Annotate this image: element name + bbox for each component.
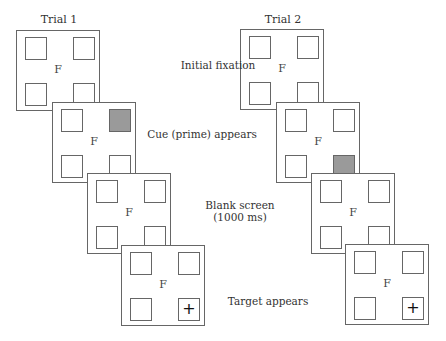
fixation-letter: F [17, 63, 99, 76]
placeholder-box [249, 82, 271, 105]
stage-label-cue: Cue (prime) appears [147, 128, 257, 140]
placeholder-box [368, 180, 390, 203]
placeholder-box [320, 226, 342, 249]
fixation-letter: F [88, 206, 170, 219]
fixation-letter: F [346, 277, 428, 290]
stage-label-initial-fixation: Initial fixation [181, 59, 256, 71]
trial-2-title: Trial 2 [265, 13, 302, 26]
trial-1-target-screen: F + [121, 245, 205, 326]
placeholder-box [320, 180, 342, 203]
trial-2-target-screen: F + [345, 244, 429, 325]
placeholder-box [354, 297, 376, 320]
trial-1-initial-fixation-screen: F [16, 30, 100, 111]
target-box: + [178, 298, 200, 321]
placeholder-box [25, 83, 47, 106]
placeholder-box [96, 180, 118, 203]
placeholder-box [61, 109, 83, 132]
placeholder-box [73, 37, 95, 60]
fixation-letter: F [277, 135, 359, 148]
plus-target-icon: + [179, 300, 199, 318]
placeholder-box [96, 226, 118, 249]
fixation-letter: F [122, 278, 204, 291]
cue-box [109, 109, 131, 132]
placeholder-box [285, 109, 307, 132]
placeholder-box [25, 37, 47, 60]
placeholder-box [354, 251, 376, 274]
fixation-letter: F [53, 135, 135, 148]
placeholder-box [402, 251, 424, 274]
trial-2-blank-screen: F [311, 173, 395, 254]
placeholder-box [178, 252, 200, 275]
placeholder-box [144, 180, 166, 203]
placeholder-box [130, 298, 152, 321]
trial-1-title: Trial 1 [41, 13, 78, 26]
stage-label-blank-screen: Blank screen [205, 199, 274, 211]
placeholder-box [61, 155, 83, 178]
trial-1-cue-screen: F [52, 102, 136, 183]
placeholder-box [130, 252, 152, 275]
placeholder-box [249, 36, 271, 59]
placeholder-box [333, 109, 355, 132]
placeholder-box [285, 155, 307, 178]
stage-label-blank-duration: (1000 ms) [213, 211, 267, 223]
fixation-letter: F [312, 206, 394, 219]
placeholder-box [297, 36, 319, 59]
trial-1-blank-screen: F [87, 173, 171, 254]
plus-target-icon: + [403, 299, 423, 317]
stage-label-target: Target appears [228, 295, 309, 307]
target-box: + [402, 297, 424, 320]
trial-2-cue-screen: F [276, 102, 360, 183]
